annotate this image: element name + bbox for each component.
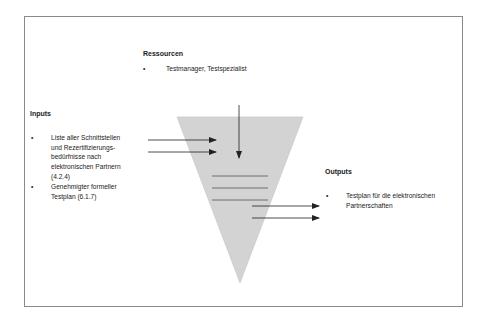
text-line: Liste aller Schnittstellen (51, 133, 121, 143)
text-line: und Rezertifizierungs- (51, 143, 121, 153)
resources-heading: Ressourcen (143, 50, 183, 57)
resources-item: Testmanager, Testspezialist (166, 64, 247, 74)
bullet-icon: • (143, 65, 145, 72)
outputs-heading: Outputs (325, 168, 352, 175)
inputs-item-1: Liste aller Schnittstellen und Rezertifi… (51, 133, 121, 182)
text-line: elektronischen Partnern (51, 162, 121, 172)
text-line: (4.2.4) (51, 172, 121, 182)
text-line: Testplan (6.1.7) (51, 192, 117, 202)
bullet-icon: • (31, 134, 33, 141)
text-line: Testplan für die elektronischen (346, 191, 435, 201)
inputs-item-2: Genehmigter formeller Testplan (6.1.7) (51, 182, 117, 201)
outputs-item-1: Testplan für die elektronischen Partners… (346, 191, 435, 210)
text-line: bedürfnisse nach (51, 152, 121, 162)
bullet-icon: • (31, 183, 33, 190)
bullet-icon: • (326, 192, 328, 199)
text-line: Partnerschaften (346, 201, 435, 211)
text-line: Genehmigter formeller (51, 182, 117, 192)
inputs-heading: Inputs (30, 110, 51, 117)
